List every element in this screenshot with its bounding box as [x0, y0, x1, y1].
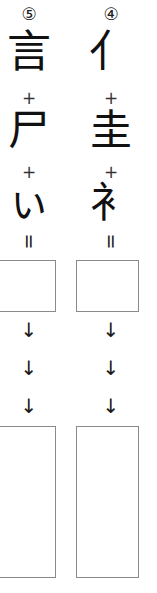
result-box-tall[interactable] — [0, 426, 56, 578]
down-arrow-icon: ↓ — [72, 358, 150, 378]
answer-box-square[interactable] — [0, 260, 56, 312]
worksheet-sheet: ⑤ 言 + 尸 + ぃ = ↓ ↓ ↓ ④ 亻 + 圭 + 衤 = ↓ ↓ ↓ — [0, 0, 157, 593]
component-glyph-person-radical-ninben: 亻 — [72, 30, 150, 74]
plus-operator: + — [0, 90, 68, 107]
result-box-tall[interactable] — [76, 426, 139, 578]
down-arrow-icon: ↓ — [0, 396, 68, 416]
component-glyph-earth-double-kei: 圭 — [72, 110, 150, 152]
down-arrow-icon: ↓ — [72, 396, 150, 416]
down-arrow-icon: ↓ — [0, 320, 68, 340]
down-arrow-icon: ↓ — [72, 320, 150, 340]
answer-box-square[interactable] — [76, 260, 139, 312]
item-number-marker: ⑤ — [0, 6, 68, 23]
item-number-marker: ④ — [72, 6, 150, 23]
down-arrow-icon: ↓ — [0, 358, 68, 378]
component-glyph-speech-radical-gon: 言 — [0, 30, 68, 74]
kanji-build-column-5: ⑤ 言 + 尸 + ぃ = ↓ ↓ ↓ — [0, 0, 68, 593]
component-glyph-corpse-radical-shi: 尸 — [0, 110, 68, 152]
plus-operator: + — [72, 90, 150, 107]
kanji-build-column-4: ④ 亻 + 圭 + 衤 = ↓ ↓ ↓ — [72, 0, 150, 593]
